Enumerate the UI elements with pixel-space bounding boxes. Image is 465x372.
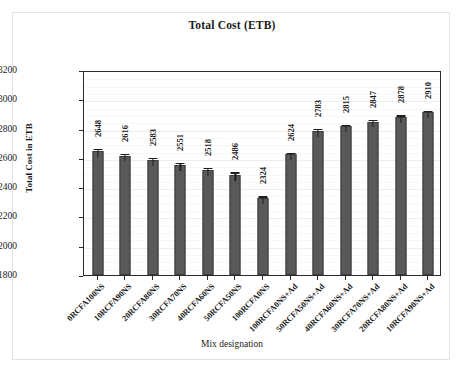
- error-bar-cap-top: [396, 115, 405, 116]
- bar-slot: 2910: [414, 72, 442, 275]
- chart-figure: Total Cost (ETB) Total Cost in ETB 18002…: [12, 12, 450, 360]
- x-tick-label: 50RCFA50NS+Ad: [275, 282, 327, 334]
- bar-value-label: 2624: [285, 121, 296, 143]
- bar: [313, 131, 324, 275]
- bar-slot: 2616: [112, 72, 140, 275]
- bar-value-label: 2616: [120, 122, 131, 144]
- error-bar-cap-top: [121, 154, 130, 155]
- bar-value-label: 2583: [147, 127, 158, 149]
- bar: [175, 165, 186, 275]
- x-tick-mark: [207, 276, 208, 280]
- bar-value-label: 2648: [92, 117, 103, 139]
- x-tick-label: 40RCFA60NS+Ad: [302, 282, 354, 334]
- bar: [257, 198, 268, 275]
- bar-slot: 2878: [387, 72, 415, 275]
- bar-slot: 2815: [332, 72, 360, 275]
- error-bar-cap-top: [203, 168, 212, 169]
- bar-value-label: 2910: [423, 79, 434, 101]
- error-bar: [235, 172, 236, 180]
- bar-value-label: 2815: [340, 93, 351, 115]
- error-bar-cap-top: [314, 129, 323, 130]
- bar-series: 2648261625832551251824862324262427832815…: [84, 72, 440, 275]
- chart-title: Total Cost (ETB): [13, 19, 451, 31]
- x-tick-mark: [372, 276, 373, 280]
- x-tick-label: 10RCFA90NS+Ad: [385, 282, 437, 334]
- y-tick-label: 3200: [0, 66, 17, 76]
- x-axis-tick-labels: 0RCFA100NS10RCFA90NS20RCFA80NS30RCFA70NS…: [83, 276, 441, 346]
- error-bar-cap-top: [93, 149, 102, 150]
- bar: [340, 126, 351, 275]
- bar: [202, 170, 213, 275]
- bar-slot: 2648: [84, 72, 112, 275]
- y-tick-label: 2800: [0, 125, 17, 135]
- bar: [423, 112, 434, 275]
- bar-slot: 2551: [167, 72, 195, 275]
- bar-slot: 2847: [359, 72, 387, 275]
- error-bar-cap-top: [286, 153, 295, 154]
- x-tick-mark: [345, 276, 346, 280]
- x-tick-mark: [427, 276, 428, 280]
- x-tick-label: 100RCFA0NS+Ad: [247, 282, 299, 334]
- y-tick-label: 2000: [0, 242, 17, 252]
- bar-value-label: 2324: [257, 165, 268, 187]
- error-bar-cap-top: [231, 172, 240, 173]
- y-tick-label: 3000: [0, 96, 17, 106]
- plot-area: 2648261625832551251824862324262427832815…: [83, 71, 441, 276]
- bar: [92, 151, 103, 275]
- y-tick-label: 2400: [0, 183, 17, 193]
- bar-value-label: 2518: [202, 137, 213, 159]
- bar-slot: 2324: [249, 72, 277, 275]
- bar: [285, 154, 296, 275]
- x-tick-mark: [262, 276, 263, 280]
- error-bar-cap-top: [258, 196, 267, 197]
- error-bar: [152, 158, 153, 166]
- x-tick-mark: [179, 276, 180, 280]
- error-bar: [97, 149, 98, 157]
- x-tick-mark: [152, 276, 153, 280]
- error-bar-cap-top: [341, 125, 350, 126]
- y-tick-label: 1800: [0, 271, 17, 281]
- bar: [395, 117, 406, 275]
- y-tick-label: 2200: [0, 213, 17, 223]
- x-tick-label: 20RCFA80NS+Ad: [357, 282, 409, 334]
- bar-value-label: 2878: [395, 84, 406, 106]
- x-tick-label: 30RCFA70NS+Ad: [330, 282, 382, 334]
- bar-value-label: 2783: [313, 98, 324, 120]
- bar: [147, 160, 158, 275]
- bar-value-label: 2847: [368, 88, 379, 110]
- bar-slot: 2783: [304, 72, 332, 275]
- x-tick-mark: [97, 276, 98, 280]
- bar-slot: 2624: [277, 72, 305, 275]
- x-tick-mark: [290, 276, 291, 280]
- bar: [230, 175, 241, 275]
- bar-value-label: 2486: [230, 141, 241, 163]
- x-tick-mark: [400, 276, 401, 280]
- error-bar-cap-top: [369, 120, 378, 121]
- bar-slot: 2583: [139, 72, 167, 275]
- bar: [368, 122, 379, 275]
- bar-slot: 2518: [194, 72, 222, 275]
- bar: [120, 156, 131, 275]
- bar-value-label: 2551: [175, 132, 186, 154]
- x-tick-mark: [234, 276, 235, 280]
- x-axis-title: Mix designation: [13, 339, 451, 349]
- x-tick-mark: [124, 276, 125, 280]
- bar-slot: 2486: [222, 72, 250, 275]
- error-bar-cap-top: [424, 111, 433, 112]
- error-bar-cap-top: [176, 163, 185, 164]
- error-bar-cap-top: [148, 158, 157, 159]
- x-tick-mark: [317, 276, 318, 280]
- y-tick-label: 2600: [0, 154, 17, 164]
